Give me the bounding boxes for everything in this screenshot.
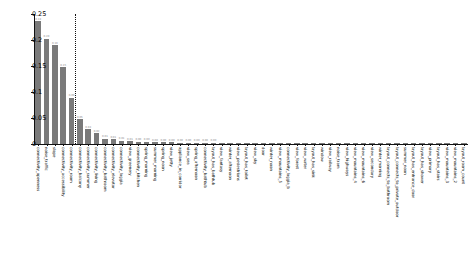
x-tick-mark bbox=[364, 144, 365, 146]
x-tick-label: layout_has_stairs bbox=[436, 147, 440, 181]
x-tick-label: winter_morning bbox=[378, 147, 382, 177]
x-tick-mark bbox=[172, 144, 173, 146]
x-tick-mark bbox=[255, 144, 256, 146]
x-tick-label: spring_noon bbox=[161, 147, 165, 171]
x-tick-mark bbox=[238, 144, 239, 146]
x-tick-label: spring_morning bbox=[144, 147, 148, 177]
bar-value-label: 0.24 bbox=[35, 18, 41, 21]
x-tick-label: layout_room_count bbox=[461, 147, 465, 184]
x-tick-label: view_fantasy bbox=[219, 147, 223, 172]
x-tick-label: view_mountains_6 bbox=[361, 147, 365, 183]
x-tick-mark bbox=[264, 144, 265, 146]
plot-area: 0.240.200.190.150.090.050.030.020.010.01… bbox=[34, 14, 468, 144]
chart-container: Relative information entropy gain 0.240.… bbox=[0, 0, 472, 262]
bar-value-label: 0.00 bbox=[160, 139, 166, 142]
x-tick-mark bbox=[339, 144, 340, 146]
x-tick-mark bbox=[439, 144, 440, 146]
x-tick-mark bbox=[305, 144, 306, 146]
x-tick-label: connectivity_loggia_b bbox=[286, 147, 290, 189]
x-tick-mark bbox=[414, 144, 415, 146]
bar: 0.02 bbox=[94, 133, 100, 144]
bar-value-label: 0.00 bbox=[135, 138, 141, 141]
x-tick-label: spring_afternoon bbox=[194, 147, 198, 180]
x-tick-label: connectivity_living bbox=[94, 147, 98, 183]
x-tick-mark bbox=[72, 144, 73, 146]
bar-value-label: 0.00 bbox=[177, 139, 183, 142]
x-tick-label: layout_has_sink bbox=[311, 147, 315, 178]
x-tick-mark bbox=[314, 144, 315, 146]
x-tick-label: view_greenery bbox=[128, 147, 132, 175]
x-tick-mark bbox=[447, 144, 448, 146]
x-tick-mark bbox=[38, 144, 39, 146]
bar-value-label: 0.15 bbox=[60, 64, 66, 67]
x-tick-mark bbox=[330, 144, 331, 146]
x-tick-label: view_pedestrians bbox=[236, 147, 240, 181]
bar: 0.09 bbox=[69, 98, 75, 144]
x-tick-label: layout_has_entrance_door bbox=[411, 147, 415, 198]
bar-value-label: 0.05 bbox=[77, 116, 83, 119]
x-axis-line bbox=[34, 144, 468, 145]
bar: 0.05 bbox=[77, 119, 83, 144]
x-tick-label: appliance_in_corridor bbox=[178, 147, 182, 189]
x-tick-mark bbox=[88, 144, 89, 146]
x-tick-label: connectivity_loggia bbox=[119, 147, 123, 185]
bar-value-label: 0.01 bbox=[102, 135, 108, 138]
threshold-line bbox=[75, 14, 76, 144]
x-tick-mark bbox=[122, 144, 123, 146]
x-tick-label: door bbox=[261, 147, 265, 156]
bar: 0.19 bbox=[52, 45, 58, 144]
bar-value-label: 0.01 bbox=[119, 137, 125, 140]
x-tick-mark bbox=[372, 144, 373, 146]
x-tick-label: layout_connects_to_private_outdoor bbox=[395, 147, 399, 217]
x-tick-label: connectivity_openness bbox=[36, 147, 40, 191]
bar-value-label: 0.00 bbox=[169, 139, 175, 142]
x-tick-mark bbox=[222, 144, 223, 146]
x-tick-mark bbox=[138, 144, 139, 146]
x-tick-label: view_forest bbox=[295, 147, 299, 169]
x-tick-label: connectivity_elevator bbox=[111, 147, 115, 189]
x-tick-mark bbox=[297, 144, 298, 146]
x-tick-mark bbox=[180, 144, 181, 146]
x-tick-mark bbox=[464, 144, 465, 146]
x-tick-label: layout_has_shower bbox=[420, 147, 424, 184]
y-tick-mark bbox=[31, 92, 34, 93]
bar-value-label: 0.01 bbox=[127, 138, 133, 141]
x-tick-mark bbox=[455, 144, 456, 146]
x-tick-label: connectivity_accessibility bbox=[61, 147, 65, 196]
x-tick-mark bbox=[80, 144, 81, 146]
bar-value-label: 0.09 bbox=[69, 94, 75, 97]
y-tick-mark bbox=[31, 144, 34, 145]
x-tick-label: connectivity_bathroom bbox=[103, 147, 107, 192]
bar: 0.15 bbox=[60, 67, 66, 144]
x-tick-mark bbox=[289, 144, 290, 146]
x-tick-mark bbox=[188, 144, 189, 146]
x-tick-mark bbox=[47, 144, 48, 146]
x-tick-label: view_mountains_5 bbox=[278, 147, 282, 183]
x-tick-label: noise_tram bbox=[336, 147, 340, 169]
x-tick-label: view_jetty bbox=[169, 147, 173, 167]
x-tick-mark bbox=[130, 144, 131, 146]
bar-value-label: 0.02 bbox=[94, 130, 100, 133]
x-tick-mark bbox=[113, 144, 114, 146]
x-tick-mark bbox=[213, 144, 214, 146]
x-tick-mark bbox=[422, 144, 423, 146]
x-tick-mark bbox=[205, 144, 206, 146]
x-tick-label: view_sky bbox=[253, 147, 257, 164]
x-tick-label: connectivity_kitchen bbox=[136, 147, 140, 187]
x-tick-label: window bbox=[320, 147, 324, 162]
x-tick-label: view_railway bbox=[328, 147, 332, 172]
x-tick-label: view_sea bbox=[186, 147, 190, 165]
bar-value-label: 0.00 bbox=[194, 139, 200, 142]
x-tick-label: layout_has_bathtub bbox=[211, 147, 215, 185]
x-tick-mark bbox=[347, 144, 348, 146]
x-tick-label: winter_noon bbox=[269, 147, 273, 171]
bar-value-label: 0.19 bbox=[52, 42, 58, 45]
x-tick-mark bbox=[105, 144, 106, 146]
y-tick-mark bbox=[31, 14, 34, 15]
x-tick-label: summer_noon bbox=[403, 147, 407, 175]
x-tick-mark bbox=[355, 144, 356, 146]
x-tick-mark bbox=[147, 144, 148, 146]
x-tick-label: slope bbox=[52, 147, 56, 157]
bar: 0.20 bbox=[44, 39, 50, 144]
x-tick-mark bbox=[55, 144, 56, 146]
